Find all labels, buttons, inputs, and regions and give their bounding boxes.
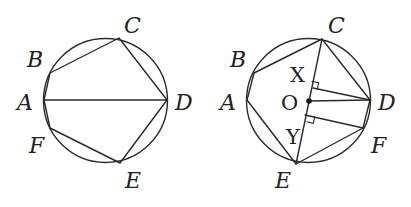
label-Y: Y	[285, 125, 301, 149]
left-figure: C B A D F E	[15, 13, 193, 193]
label-C: C	[328, 13, 345, 38]
label-E: E	[124, 168, 141, 193]
label-A: A	[218, 90, 236, 115]
label-A: A	[15, 90, 33, 115]
label-F: F	[370, 133, 387, 158]
radius-OD	[309, 100, 370, 101]
label-X: X	[290, 63, 305, 87]
center-point-O	[306, 98, 312, 104]
label-D: D	[174, 90, 193, 115]
right-figure: C B A X O Y D F E	[218, 13, 396, 193]
label-B: B	[229, 47, 246, 72]
label-B: B	[26, 47, 43, 72]
label-E: E	[274, 168, 291, 193]
label-C: C	[124, 13, 141, 38]
label-F: F	[28, 133, 45, 158]
geometry-diagram: C B A D F E C B A X O Y D F E	[0, 0, 411, 207]
label-D: D	[377, 90, 396, 115]
label-O: O	[281, 91, 298, 115]
